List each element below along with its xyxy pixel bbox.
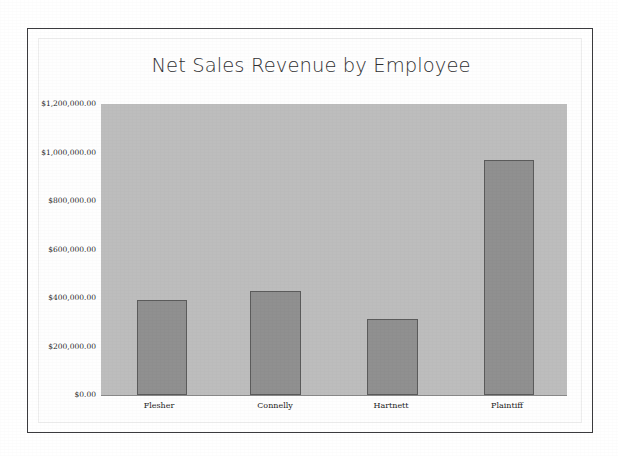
x-axis-baseline	[101, 395, 567, 396]
chart-title: Net Sales Revenue by Employee	[28, 54, 594, 77]
bar-plaintiff	[484, 160, 534, 395]
x-axis-label-flesher: Flesher	[101, 401, 217, 410]
chart-outer-frame: Net Sales Revenue by Employee $1,200,000…	[27, 28, 593, 433]
x-axis-label-plaintiff: Plaintiff	[449, 401, 565, 410]
bar-hartnett	[367, 319, 418, 395]
y-axis-tick-label: $800,000.00	[0, 197, 96, 205]
y-axis-tick-label: $600,000.00	[0, 246, 96, 254]
bar-connelly	[250, 291, 301, 395]
plot-area	[101, 104, 567, 395]
y-axis-tick-label: $1,200,000.00	[0, 100, 96, 108]
y-axis-tick-label: $200,000.00	[0, 343, 96, 351]
bar-flesher	[137, 300, 187, 395]
y-axis-tick-label: $0.00	[0, 391, 96, 399]
bar-chart: Net Sales Revenue by Employee $1,200,000…	[28, 29, 594, 434]
y-axis-tick-label: $1,000,000.00	[0, 149, 96, 157]
y-axis-tick-label: $400,000.00	[0, 294, 96, 302]
scanned-page: Net Sales Revenue by Employee $1,200,000…	[0, 0, 618, 456]
x-axis-label-hartnett: Hartnett	[333, 401, 449, 410]
x-axis-label-connelly: Connelly	[217, 401, 333, 410]
